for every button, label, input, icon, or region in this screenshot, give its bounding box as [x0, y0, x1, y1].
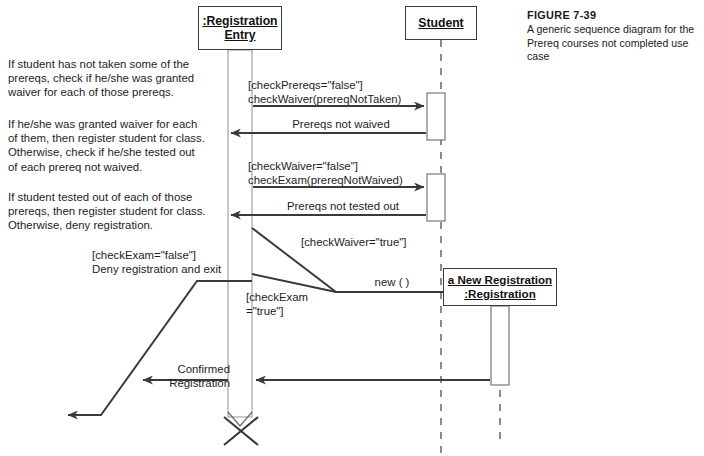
- object-box-new-registration[interactable]: a New Registration :Registration: [443, 268, 557, 306]
- object-box-student[interactable]: Student: [405, 6, 477, 40]
- message-label-prereqs-not-waived: Prereqs not waived: [254, 117, 428, 131]
- destruction-marker-icon: [224, 417, 258, 445]
- figure-number: FIGURE 7-39: [527, 9, 699, 22]
- message-label-confirmed-registration: Confirmed Registration: [146, 362, 230, 390]
- message-label-check-exam-true: [checkExam ="true"]: [246, 290, 336, 318]
- object-label-student: Student: [418, 16, 463, 31]
- lifeline-new-registration: [491, 306, 509, 440]
- figure-description: A generic sequence diagram for the Prere…: [527, 23, 699, 63]
- figure-caption: FIGURE 7-39 A generic sequence diagram f…: [527, 9, 699, 64]
- object-box-registration-entry[interactable]: :Registration Entry: [198, 6, 282, 50]
- note-prereqs-not-taken: If student has not taken some of the pre…: [8, 57, 218, 100]
- message-label-check-waiver-true: [checkWaiver="true"]: [301, 235, 441, 249]
- message-arrow-deny-registration-exit: [68, 281, 252, 415]
- message-label-check-exam-false: [checkExam="false"] Deny registration an…: [92, 248, 262, 276]
- message-label-check-exam: [checkWaiver="false"] checkExam(prereqNo…: [248, 159, 444, 187]
- message-label-prereqs-not-tested-out: Prereqs not tested out: [254, 199, 432, 213]
- object-label-registration-entry-line1: :Registration: [202, 14, 277, 29]
- activation-bar-new-registration: [491, 306, 509, 385]
- message-label-new: new ( ): [364, 275, 420, 289]
- note-waiver-granted: If he/she was granted waiver for each of…: [8, 117, 220, 174]
- note-tested-out: If student tested out of each of those p…: [8, 190, 220, 233]
- message-label-check-waiver: [checkPrereqs="false"] checkWaiver(prere…: [248, 78, 438, 106]
- object-label-new-registration-line1: a New Registration: [448, 273, 552, 288]
- object-label-registration-entry-line2: Entry: [224, 28, 255, 43]
- object-label-new-registration-line2: :Registration: [464, 287, 536, 302]
